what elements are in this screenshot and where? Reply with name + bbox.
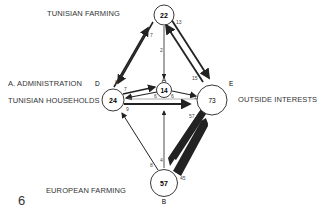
flow-value: 2 xyxy=(160,47,163,53)
flow-value: 6 xyxy=(171,93,174,99)
flow-value: 1 xyxy=(194,94,197,100)
flow-e-c xyxy=(166,25,203,82)
node-c-value: 22 xyxy=(160,12,168,19)
flow-value: 13 xyxy=(176,19,182,25)
node-a-letter: A xyxy=(162,76,167,83)
flow-value: 57 xyxy=(189,113,195,119)
node-a-value: 14 xyxy=(160,87,168,94)
flow-value: 9 xyxy=(126,106,129,112)
flow-d-c xyxy=(114,28,148,87)
node-b-value: 57 xyxy=(160,180,168,187)
flow-value: 7 xyxy=(150,32,153,38)
flow-value: 8 xyxy=(115,79,118,85)
flow-value: 6 xyxy=(154,93,157,99)
flow-value: 7 xyxy=(124,86,127,92)
label-outside-interests: OUTSIDE INTERESTS xyxy=(238,95,317,104)
node-b-letter: B xyxy=(162,198,166,205)
label-tunisian-farming: TUNISIAN FARMING xyxy=(47,9,120,18)
flow-diagram: 22 14 24 73 57 A D E B 7 8 2 13 15 7 6 6… xyxy=(0,0,323,212)
node-e-letter: E xyxy=(229,80,234,87)
node-d-letter: D xyxy=(95,80,100,87)
label-tunisian-households: TUNISIAN HOUSEHOLDS xyxy=(8,96,100,105)
node-e-value: 73 xyxy=(208,97,216,104)
label-european-farming: EUROPEAN FARMING xyxy=(46,186,126,195)
label-administration: A. ADMINISTRATION xyxy=(8,79,82,88)
flow-c-d xyxy=(118,22,153,83)
figure-number: 6 xyxy=(18,193,25,208)
flow-value: 8 xyxy=(150,162,153,168)
flow-value: 15 xyxy=(192,75,198,81)
flow-value: 4 xyxy=(160,157,163,163)
flow-a-e xyxy=(172,91,196,96)
node-d-value: 24 xyxy=(109,97,117,104)
flow-c-e xyxy=(171,19,209,78)
flow-value: 45 xyxy=(180,175,186,181)
